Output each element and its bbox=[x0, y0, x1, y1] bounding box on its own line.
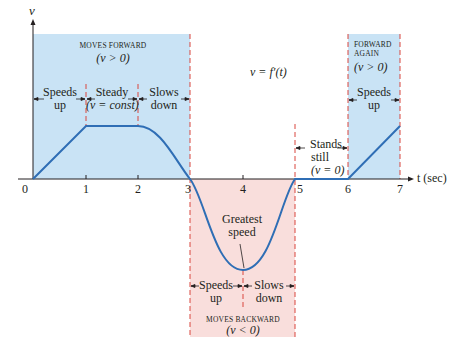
tick-5: 5 bbox=[297, 182, 303, 197]
up-text: up bbox=[42, 99, 78, 112]
forward-again-condition: (v > 0) bbox=[354, 61, 387, 74]
slows-down-label-2: Slows down bbox=[251, 279, 287, 305]
speeds-up-label-1: Speeds up bbox=[42, 86, 78, 112]
forward-condition: (v > 0) bbox=[93, 52, 133, 65]
forward-again-title: FORWARD AGAIN bbox=[354, 40, 394, 58]
function-label: v = f′(t) bbox=[250, 66, 287, 79]
speed-text: speed bbox=[220, 226, 264, 239]
tick-0: 0 bbox=[22, 182, 28, 197]
backward-condition: (v < 0) bbox=[222, 324, 264, 337]
forward-text: FORWARD bbox=[354, 40, 394, 49]
speeds-up-label-3: Speeds up bbox=[356, 86, 392, 112]
x-axis-label-text: t (sec) bbox=[417, 171, 447, 185]
x-axis-label: t (sec) bbox=[417, 172, 447, 185]
greatest-speed-label: Greatest speed bbox=[220, 213, 264, 239]
forward-title: MOVES FORWARD bbox=[78, 41, 148, 50]
up-text: up bbox=[198, 292, 234, 305]
down-text: down bbox=[146, 99, 182, 112]
tick-3: 3 bbox=[185, 182, 191, 197]
tick-1: 1 bbox=[83, 182, 89, 197]
steady-condition: (v = const) bbox=[86, 99, 138, 112]
y-axis-arrow-icon bbox=[31, 19, 36, 25]
steady-label: Steady (v = const) bbox=[86, 86, 138, 112]
speeds-up-label-2: Speeds up bbox=[198, 279, 234, 305]
tick-6: 6 bbox=[345, 182, 351, 197]
x-axis-arrow-icon bbox=[408, 177, 414, 182]
again-text: AGAIN bbox=[354, 49, 394, 58]
y-axis-label: v bbox=[29, 4, 35, 17]
down-text: down bbox=[251, 292, 287, 305]
tick-4: 4 bbox=[240, 182, 246, 197]
stands-still-condition: (v = 0) bbox=[311, 164, 344, 177]
tick-7: 7 bbox=[397, 182, 403, 197]
up-text: up bbox=[356, 99, 392, 112]
slows-down-label-1: Slows down bbox=[146, 86, 182, 112]
tick-2: 2 bbox=[135, 182, 141, 197]
